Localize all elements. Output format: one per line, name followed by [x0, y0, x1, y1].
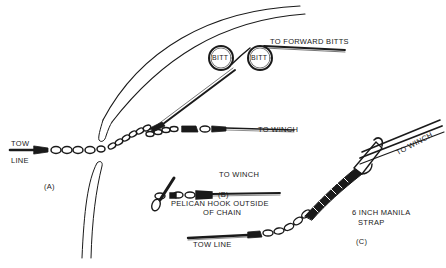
line-bitts-to-chain — [155, 70, 235, 130]
label-tow-line-a-top: TOW — [11, 140, 29, 148]
label-to-winch-a: TO WINCH — [258, 126, 298, 134]
towing-rig-diagram — [0, 0, 446, 268]
label-to-winch-b: TO WINCH — [219, 171, 259, 179]
chain-upper — [107, 124, 151, 150]
label-pelican-caption-1: PELICAN HOOK OUTSIDE — [171, 200, 269, 208]
chock-lower-outer — [82, 162, 102, 258]
label-bitt-left: BITT — [212, 54, 228, 61]
label-bitt-right: BITT — [251, 54, 267, 61]
label-tow-line-c: TOW LINE — [193, 241, 232, 249]
label-manila-strap-2: STRAP — [358, 219, 385, 227]
label-tow-line-a-bottom: LINE — [11, 157, 29, 165]
label-panel-c: (C) — [356, 238, 367, 246]
chain-c — [263, 208, 312, 236]
chock-upper — [99, 120, 112, 141]
label-pelican-caption-2: OF CHAIN — [203, 209, 241, 217]
label-panel-a: (A) — [44, 183, 55, 191]
line-to-forward-bitts — [264, 46, 345, 50]
hull-inner-line — [112, 14, 305, 122]
label-panel-b: (B) — [218, 191, 229, 199]
label-to-forward-bitts: TO FORWARD BITTS — [270, 38, 349, 46]
hook-c — [354, 142, 382, 174]
chain-lower-left — [51, 146, 105, 154]
pelican-hook-a — [182, 126, 198, 132]
label-manila-strap-1: 6 INCH MANILA — [352, 209, 411, 217]
